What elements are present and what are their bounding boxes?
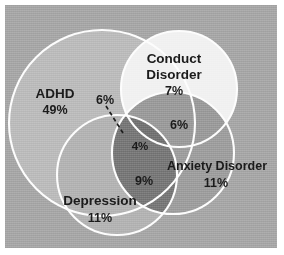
label-nine-percent: 9% [135,174,153,188]
venn-diagram-figure: ADHD 49% Conduct Disorder 7% Anxiety Dis… [5,5,277,248]
label-adhd-percent: 49% [42,103,67,117]
label-conduct-percent: 7% [165,84,183,98]
venn-diagram-svg: ADHD 49% Conduct Disorder 7% Anxiety Dis… [5,5,277,248]
label-adhd-name: ADHD [36,86,75,101]
label-conduct-name-line2: Disorder [146,67,202,82]
label-depression-percent: 11% [88,211,112,225]
label-anxiety-percent: 11% [204,176,228,190]
label-six-percent-inner: 6% [170,118,188,132]
label-conduct-name-line1: Conduct [147,51,202,66]
label-anxiety-name: Anxiety Disorder [167,159,267,173]
label-depression-name: Depression [63,193,137,208]
label-four-percent: 4% [132,140,149,152]
label-six-percent-callout: 6% [96,93,114,107]
